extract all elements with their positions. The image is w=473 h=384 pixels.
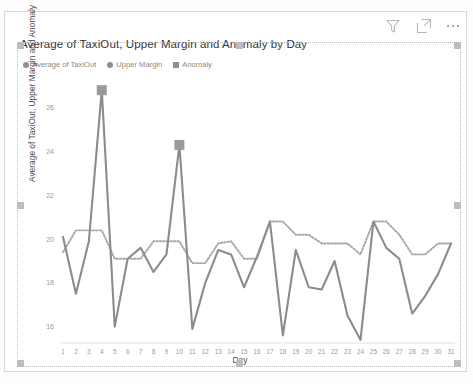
legend-label: Upper Margin: [116, 60, 162, 69]
x-axis-tick-label: 8: [152, 348, 156, 355]
more-options-icon[interactable]: [446, 25, 461, 28]
x-axis-tick-label: 18: [279, 348, 287, 355]
x-axis-tick-label: 23: [344, 348, 352, 355]
x-axis-tick-label: 27: [396, 348, 404, 355]
x-axis-tick-label: 20: [305, 348, 313, 355]
y-axis-tick-label: 18: [46, 279, 54, 286]
legend-item-upper-margin[interactable]: Upper Margin: [107, 60, 162, 69]
x-axis-tick-label: 17: [266, 348, 274, 355]
legend-marker-square-icon: [173, 62, 179, 68]
chart-legend: Average of TaxiOut Upper Margin Anomaly: [23, 60, 212, 69]
legend-marker-circle-icon: [107, 62, 113, 68]
y-axis-tick-label: 26: [46, 104, 54, 111]
x-axis-tick-label: 6: [126, 348, 130, 355]
resize-handle-top-right[interactable]: [454, 42, 461, 49]
x-axis-tick-label: 19: [292, 348, 300, 355]
x-axis-tick-label: 3: [87, 348, 91, 355]
focus-mode-icon[interactable]: [415, 17, 433, 35]
screenshot-root: Average of TaxiOut, Upper Margin and Ano…: [0, 0, 473, 384]
x-axis-tick-label: 2: [74, 348, 78, 355]
series-anomaly-markers: [97, 85, 185, 150]
x-axis-tick-label: 24: [357, 348, 365, 355]
x-axis-tick-label: 1: [61, 348, 65, 355]
chart-canvas[interactable]: 161820222426 123456789101112131415161718…: [19, 74, 461, 367]
x-axis-tick-label: 21: [318, 348, 326, 355]
y-axis-tick-label: 16: [46, 323, 54, 330]
x-axis-tick-label: 14: [228, 348, 236, 355]
x-axis-tick-label: 15: [241, 348, 249, 355]
legend-item-anomaly[interactable]: Anomaly: [173, 60, 212, 69]
x-axis-tick-label: 22: [331, 348, 339, 355]
legend-label: Anomaly: [182, 60, 212, 69]
x-axis-tick-label: 30: [435, 348, 443, 355]
y-axis-tick-label: 24: [46, 148, 54, 155]
x-axis-tick-label: 25: [370, 348, 378, 355]
x-axis-tick-label: 7: [139, 348, 143, 355]
x-axis-title: Day: [19, 355, 461, 365]
x-axis-tick-label: 11: [189, 348, 196, 355]
legend-label: Average of TaxiOut: [32, 60, 96, 69]
x-axis-tick-label: 9: [165, 348, 169, 355]
anomaly-marker[interactable]: [97, 85, 107, 95]
x-axis-tick-labels: 1234567891011121314151617181920212223242…: [61, 348, 455, 355]
x-axis-tick-label: 26: [383, 348, 391, 355]
x-axis-tick-label: 16: [253, 348, 261, 355]
anomaly-marker[interactable]: [174, 140, 184, 150]
chart-title: Average of TaxiOut, Upper Margin and Ano…: [20, 38, 307, 50]
visual-header-icons: [384, 14, 461, 38]
y-axis-tick-label: 22: [46, 192, 54, 199]
chart-visual-card: Average of TaxiOut, Upper Margin and Ano…: [4, 11, 467, 372]
filter-icon[interactable]: [384, 17, 402, 35]
x-axis-tick-label: 5: [113, 348, 117, 355]
x-axis-tick-label: 13: [215, 348, 223, 355]
y-axis-tick-labels: 161820222426: [46, 104, 54, 330]
x-axis-tick-label: 28: [409, 348, 417, 355]
x-axis-tick-label: 31: [447, 348, 455, 355]
x-axis-tick-label: 4: [100, 348, 104, 355]
series-average-taxiout-line[interactable]: [63, 90, 451, 340]
x-axis-tick-label: 10: [176, 348, 184, 355]
plot-area: Average of TaxiOut, Upper Margin and Ano…: [19, 74, 461, 367]
x-axis-tick-label: 12: [202, 348, 210, 355]
x-axis-tick-label: 29: [422, 348, 430, 355]
y-axis-tick-label: 20: [46, 236, 54, 243]
